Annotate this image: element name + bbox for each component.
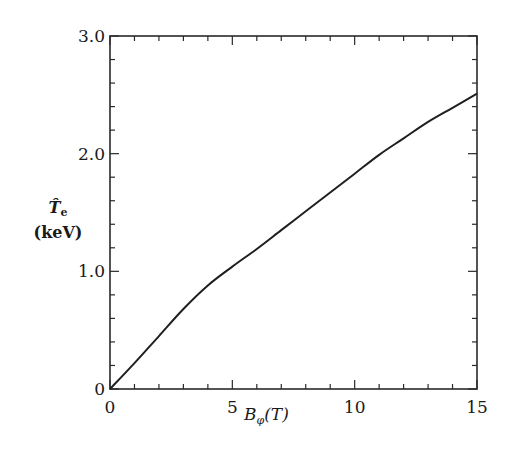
- x-tick-label: 10: [344, 397, 366, 417]
- y-axis-label: T̂e (keV): [28, 198, 88, 243]
- x-axis-label: Bφ(T): [244, 404, 289, 427]
- plot-frame: [110, 36, 477, 389]
- x-axis-unit: (T): [264, 404, 289, 424]
- y-tick-label: 1.0: [78, 261, 105, 281]
- y-tick-label: 0: [94, 379, 105, 399]
- x-tick-label: 15: [466, 397, 488, 417]
- x-tick-label: 5: [227, 397, 238, 417]
- y-axis-symbol: T̂: [49, 198, 61, 217]
- y-axis-unit: (keV): [28, 223, 88, 243]
- axis-ticks: [110, 36, 477, 389]
- x-axis-symbol: B: [244, 404, 257, 424]
- x-tick-label: 0: [105, 397, 116, 417]
- data-line: [110, 94, 477, 389]
- y-axis-subscript: e: [60, 206, 67, 219]
- y-tick-label: 2.0: [78, 144, 105, 164]
- y-tick-label: 3.0: [78, 26, 105, 46]
